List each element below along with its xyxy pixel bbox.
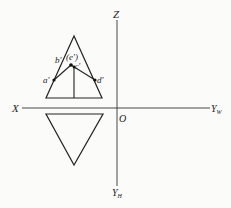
projection-diagram: Z X O YW YH b' (e') c' a' d': [0, 0, 231, 208]
label-z: Z: [113, 8, 120, 20]
diagram-svg: Z X O YW YH b' (e') c' a' d': [0, 0, 231, 208]
top-view-triangle: [46, 114, 103, 165]
label-d-prime: d': [97, 75, 105, 85]
label-b-prime: b': [55, 55, 63, 65]
label-c-prime: c': [75, 62, 81, 71]
label-origin: O: [119, 113, 126, 124]
label-yh: YH: [112, 187, 123, 199]
label-e-prime: (e'): [66, 52, 78, 62]
label-x: X: [11, 102, 20, 114]
label-a-prime: a': [43, 75, 51, 85]
line-a-c: [54, 65, 71, 80]
label-yw: YW: [211, 103, 223, 115]
point-c: [69, 63, 73, 67]
point-a: [52, 78, 55, 81]
